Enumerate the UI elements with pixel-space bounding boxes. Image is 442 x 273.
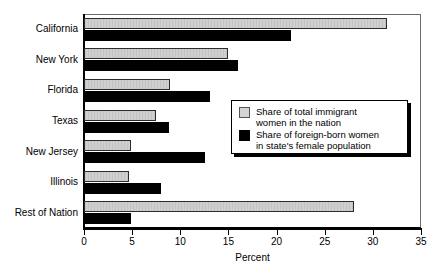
y-axis-label-florida: Florida — [0, 84, 78, 95]
x-tick-mark-25 — [325, 230, 326, 235]
bar-texas-series-1 — [84, 122, 169, 133]
x-tick-mark-0 — [84, 230, 85, 235]
bar-new-york-series-0 — [84, 48, 228, 59]
chart-legend: Share of total immigrant women in the na… — [231, 100, 408, 154]
x-tick-label-35: 35 — [406, 236, 436, 248]
x-tick-mark-15 — [228, 230, 229, 235]
y-axis-label-illinois: Illinois — [0, 176, 78, 187]
bar-florida-series-1 — [84, 91, 210, 102]
y-axis-label-texas: Texas — [0, 115, 78, 126]
bar-new-jersey-series-1 — [84, 152, 205, 163]
bar-new-jersey-series-0 — [84, 140, 131, 151]
y-axis-label-california: California — [0, 23, 78, 34]
y-axis-label-new-jersey: New Jersey — [0, 146, 78, 157]
bar-california-series-1 — [84, 30, 291, 41]
bar-new-york-series-1 — [84, 60, 238, 71]
x-tick-mark-10 — [180, 230, 181, 235]
legend-entry-1: Share of foreign-born women in state's f… — [239, 129, 379, 151]
bar-rest-of-nation-series-1 — [84, 213, 131, 224]
x-tick-label-0: 0 — [69, 236, 99, 248]
legend-swatch-light-gray-square — [239, 107, 250, 118]
bar-texas-series-0 — [84, 110, 156, 121]
x-tick-mark-35 — [421, 230, 422, 235]
x-tick-label-20: 20 — [262, 236, 292, 248]
y-axis-label-rest-of-nation: Rest of Nation — [0, 207, 78, 218]
x-tick-label-25: 25 — [310, 236, 340, 248]
legend-label-0: Share of total immigrant women in the na… — [256, 106, 357, 128]
x-tick-label-15: 15 — [213, 236, 243, 248]
y-axis-label-new-york: New York — [0, 54, 78, 65]
legend-label-1: Share of foreign-born women in state's f… — [256, 129, 379, 151]
bar-illinois-series-0 — [84, 171, 129, 182]
legend-swatch-black-square — [239, 130, 250, 141]
bar-florida-series-0 — [84, 79, 170, 90]
bar-illinois-series-1 — [84, 183, 161, 194]
x-tick-mark-30 — [373, 230, 374, 235]
x-tick-mark-20 — [277, 230, 278, 235]
bar-rest-of-nation-series-0 — [84, 201, 354, 212]
x-tick-mark-5 — [132, 230, 133, 235]
x-tick-label-30: 30 — [358, 236, 388, 248]
x-tick-label-5: 5 — [117, 236, 147, 248]
bar-chart: CaliforniaNew YorkFloridaTexasNew Jersey… — [0, 0, 442, 273]
y-axis-category-labels: CaliforniaNew YorkFloridaTexasNew Jersey… — [0, 14, 78, 228]
legend-entry-0: Share of total immigrant women in the na… — [239, 106, 357, 128]
x-tick-label-10: 10 — [165, 236, 195, 248]
bar-california-series-0 — [84, 18, 387, 29]
x-axis-title: Percent — [84, 252, 421, 263]
